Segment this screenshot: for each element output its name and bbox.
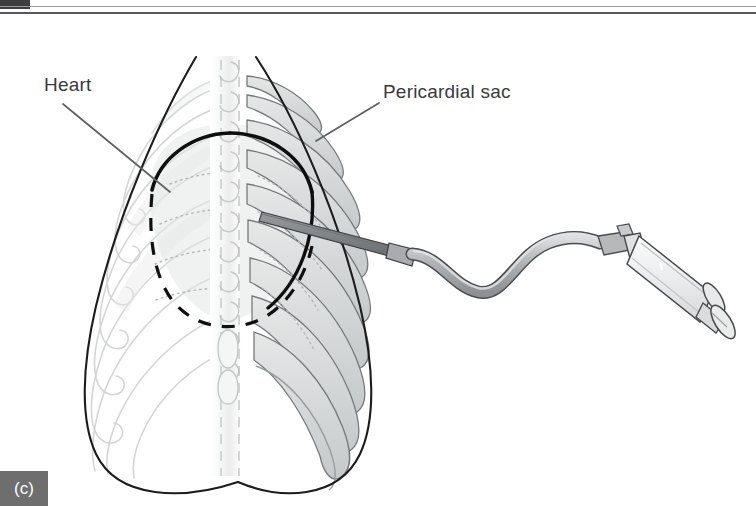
label-heart: Heart	[44, 74, 91, 96]
anatomical-illustration	[0, 0, 756, 506]
figure-panel: Heart Pericardial sac (c)	[0, 0, 756, 506]
tubing	[412, 234, 600, 293]
leader-line-pericardial-sac	[316, 103, 379, 141]
label-pericardial-sac: Pericardial sac	[383, 81, 511, 103]
panel-tag: (c)	[0, 471, 48, 506]
vertebral-column	[210, 56, 240, 476]
syringe	[598, 224, 740, 342]
leader-line-heart	[63, 104, 170, 192]
